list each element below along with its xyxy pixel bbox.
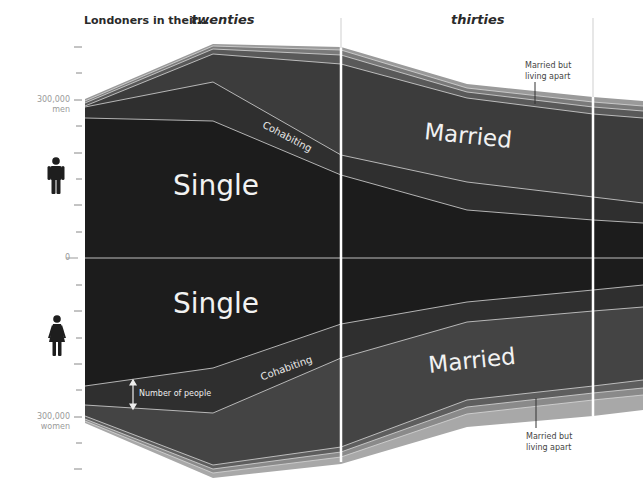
- y-label-bottom-unit: women: [10, 422, 70, 432]
- y-label-top-unit: men: [10, 105, 70, 115]
- man-icon: [48, 157, 65, 194]
- woman-icon: [48, 315, 66, 356]
- y-label-bottom: 300,000 women: [10, 412, 70, 432]
- label-apart-top-line1: Married but: [525, 60, 571, 71]
- label-apart-bottom-line2: living apart: [526, 442, 572, 453]
- label-apart-bottom-line1: Married but: [526, 431, 572, 442]
- y-label-top: 300,000 men: [10, 95, 70, 115]
- label-apart-top-line2: living apart: [525, 71, 571, 82]
- y-label-top-value: 300,000: [10, 95, 70, 105]
- label-number-of-people: Number of people: [139, 389, 211, 398]
- label-apart-bottom: Married but living apart: [526, 431, 572, 453]
- decade-thirties: thirties: [451, 12, 505, 27]
- label-apart-top: Married but living apart: [525, 60, 571, 82]
- y-label-zero: 0: [40, 253, 70, 263]
- y-label-bottom-value: 300,000: [10, 412, 70, 422]
- population-chart: Londoners in their... twenties thirties …: [0, 0, 643, 504]
- decade-twenties: twenties: [191, 12, 255, 27]
- label-single-men: Single: [173, 169, 259, 202]
- label-single-women: Single: [173, 287, 259, 320]
